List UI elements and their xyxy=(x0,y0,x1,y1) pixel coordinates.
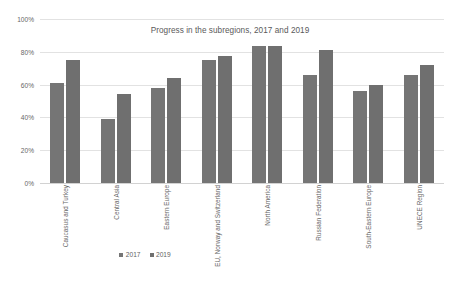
y-axis-tick-label: 100% xyxy=(0,16,34,23)
bar-pair xyxy=(293,19,344,183)
x-axis-category-label: Russian Federation xyxy=(314,185,321,241)
bar-pair xyxy=(141,19,192,183)
x-axis-category: South-Eastern Europe xyxy=(343,185,394,277)
bar-2017[interactable] xyxy=(404,75,418,183)
legend-item-2017[interactable]: 2017 xyxy=(119,251,140,258)
bar-group xyxy=(192,19,243,183)
y-axis-tick-label: 40% xyxy=(0,114,34,121)
x-axis-category: Eastern Europe xyxy=(141,185,192,277)
bar-group xyxy=(293,19,344,183)
x-axis-category-label: Eastern Europe xyxy=(163,185,170,230)
bar-groups xyxy=(40,19,444,183)
bar-group xyxy=(343,19,394,183)
bar-2017[interactable] xyxy=(151,88,165,183)
bar-pair xyxy=(394,19,445,183)
bar-group xyxy=(394,19,445,183)
bar-group xyxy=(141,19,192,183)
bar-pair xyxy=(343,19,394,183)
x-axis-category: UNECE Region xyxy=(394,185,445,277)
x-axis-category-label: UNECE Region xyxy=(415,185,422,230)
bar-2019[interactable] xyxy=(420,65,434,183)
gridline xyxy=(40,183,444,184)
bar-pair xyxy=(40,19,91,183)
x-axis-category: North America xyxy=(242,185,293,277)
legend-swatch-icon xyxy=(119,253,123,257)
x-axis-category-label: Caucasus and Turkey xyxy=(62,185,69,247)
bar-2019[interactable] xyxy=(167,78,181,183)
bar-pair xyxy=(192,19,243,183)
legend-label: 2017 xyxy=(126,251,141,258)
x-axis-category: EU, Norway and Switzerland xyxy=(192,185,243,277)
bar-2017[interactable] xyxy=(101,119,115,183)
bar-2019[interactable] xyxy=(218,56,232,183)
x-axis-category-labels: Caucasus and TurkeyCentral AsiaEastern E… xyxy=(40,185,444,277)
bar-2017[interactable] xyxy=(252,46,266,183)
bar-pair xyxy=(242,19,293,183)
bar-2019[interactable] xyxy=(369,85,383,183)
x-axis-category-label: Central Asia xyxy=(112,185,119,220)
bar-group xyxy=(242,19,293,183)
x-axis-category: Russian Federation xyxy=(293,185,344,277)
y-axis-tick-label: 0% xyxy=(0,180,34,187)
y-axis-tick-label: 80% xyxy=(0,48,34,55)
x-axis-category: Caucasus and Turkey xyxy=(40,185,91,277)
y-axis-tick-label: 20% xyxy=(0,147,34,154)
x-axis-category: Central Asia xyxy=(91,185,142,277)
bar-2019[interactable] xyxy=(66,60,80,183)
chart-legend: 20172019 xyxy=(0,251,290,258)
bar-pair xyxy=(91,19,142,183)
bar-2019[interactable] xyxy=(268,46,282,183)
x-axis-category-label: North America xyxy=(264,185,271,226)
bar-group xyxy=(91,19,142,183)
bar-chart: Progress in the subregions, 2017 and 201… xyxy=(0,0,456,294)
legend-swatch-icon xyxy=(150,253,154,257)
bar-2017[interactable] xyxy=(202,60,216,183)
x-axis-category-label: South-Eastern Europe xyxy=(365,185,372,249)
bar-2019[interactable] xyxy=(117,94,131,183)
legend-label: 2019 xyxy=(156,251,171,258)
bar-2017[interactable] xyxy=(50,83,64,183)
bar-2017[interactable] xyxy=(353,91,367,183)
bar-group xyxy=(40,19,91,183)
legend-item-2019[interactable]: 2019 xyxy=(150,251,171,258)
y-axis-tick-label: 60% xyxy=(0,81,34,88)
bar-2019[interactable] xyxy=(319,50,333,183)
bar-2017[interactable] xyxy=(303,75,317,183)
plot-area xyxy=(40,19,444,183)
